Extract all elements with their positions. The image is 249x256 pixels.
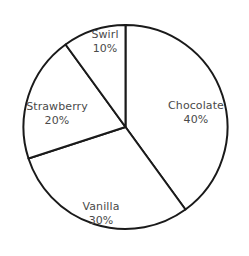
pie-slice-label-vanilla: Vanilla 30%: [83, 200, 120, 227]
pie-slice-group: [23, 25, 227, 229]
pie-slice-value: 30%: [83, 213, 120, 227]
pie-slice-name: Chocolate: [168, 99, 224, 113]
pie-slice-name: Swirl: [91, 28, 118, 42]
pie-chart: Chocolate 40% Vanilla 30% Strawberry 20%…: [0, 0, 249, 256]
pie-slice-value: 10%: [91, 41, 118, 55]
pie-slice-label-strawberry: Strawberry 20%: [26, 100, 88, 127]
pie-slice-label-chocolate: Chocolate 40%: [168, 99, 224, 126]
pie-slice-value: 20%: [26, 113, 88, 127]
pie-chart-canvas: [0, 0, 249, 256]
pie-slice-label-swirl: Swirl 10%: [91, 28, 118, 55]
pie-slice-name: Strawberry: [26, 100, 88, 114]
pie-slice-value: 40%: [168, 112, 224, 126]
pie-slice-name: Vanilla: [83, 200, 120, 214]
